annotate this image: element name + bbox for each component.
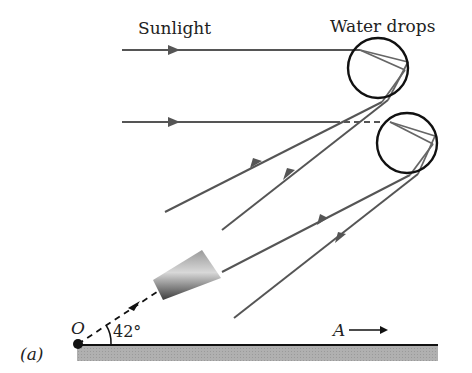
angle-arc	[106, 325, 111, 344]
arrow-down-left-icon	[335, 232, 346, 243]
angle-label: 42°	[113, 322, 141, 341]
direction-label: A	[333, 320, 345, 340]
panel-label: (a)	[20, 344, 43, 364]
drop-1-internal-rays	[360, 50, 408, 102]
outgoing-ray-3	[222, 175, 410, 272]
arrow-right-icon	[168, 117, 180, 127]
drop-2-internal-rays	[390, 122, 435, 175]
water-drops-label: Water drops	[330, 16, 435, 36]
observer-point	[73, 339, 83, 349]
outgoing-ray-4	[234, 174, 418, 318]
sunlight-label: Sunlight	[138, 18, 211, 38]
outgoing-ray-1	[165, 102, 382, 212]
incoming-ray-1	[122, 45, 360, 55]
ground	[77, 345, 438, 361]
direction-arrow	[349, 326, 388, 334]
arrow-right-icon	[168, 45, 180, 55]
arrow-down-left-icon	[128, 301, 140, 311]
arrow-right-icon	[380, 326, 388, 334]
water-drop-2	[377, 113, 437, 173]
rainbow-diagram: Sunlight Water drops O 42° A (a)	[0, 0, 472, 373]
observer-label: O	[71, 318, 85, 338]
arrow-down-left-icon	[317, 214, 328, 225]
